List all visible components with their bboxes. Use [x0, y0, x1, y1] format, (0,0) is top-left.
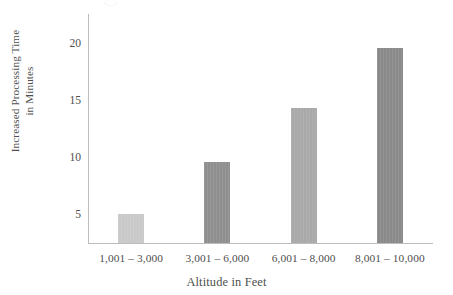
x-axis-title: Altitude in Feet	[0, 275, 453, 290]
partial-artifact-icon	[104, 0, 117, 6]
y-tick-label-10: 10	[69, 151, 81, 164]
y-tick-label-20: 20	[69, 36, 81, 49]
bar-3	[291, 108, 317, 243]
x-category-label-2: 3,001 – 6,000	[185, 252, 249, 264]
bar-4	[377, 48, 403, 243]
y-tick-label-5: 5	[75, 208, 81, 221]
y-axis-title-line-2: in Minutes	[22, 66, 36, 115]
y-axis-line	[88, 14, 89, 244]
x-category-label-4: 8,001 – 10,000	[355, 252, 425, 264]
x-axis-line	[88, 243, 433, 244]
y-axis-title-line-1: Increased Processing Time	[8, 30, 22, 152]
bar-chart-figure: Increased Processing Time in Minutes 201…	[0, 0, 453, 295]
y-axis-title: Increased Processing Time in Minutes	[0, 0, 44, 186]
y-tick-label-15: 15	[69, 93, 81, 106]
bar-1	[118, 214, 144, 243]
x-category-label-1: 1,001 – 3,000	[99, 252, 163, 264]
bar-2	[204, 162, 230, 243]
plot-area: 2015105 1,001 – 3,0003,001 – 6,0006,001 …	[88, 14, 433, 244]
x-category-label-3: 6,001 – 8,000	[272, 252, 336, 264]
